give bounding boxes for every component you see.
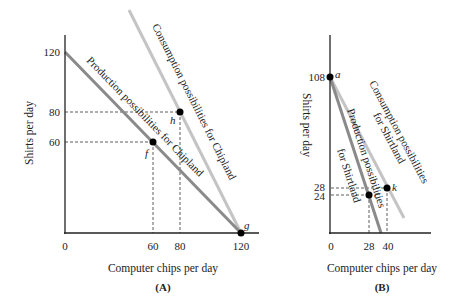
x-tick-28: 28: [364, 240, 376, 252]
x-axis-label-a: Computer chips per day: [108, 262, 218, 275]
panel-label-b: (B): [375, 281, 390, 294]
point-label-g: g: [244, 219, 250, 231]
production-label-chipland: Production possibilities for Chipland: [85, 54, 207, 179]
point-label-f: f: [145, 147, 150, 159]
point-c: [366, 192, 373, 199]
y-tick-80: 80: [49, 106, 61, 118]
y-tick-108: 108: [309, 71, 326, 83]
point-label-k: k: [392, 181, 398, 193]
point-f: [150, 139, 157, 146]
y-tick-24: 24: [314, 190, 326, 202]
panel-label-a: (A): [155, 281, 171, 294]
figure: f h g 120 80 60 0 60 80 120 Computer chi…: [0, 0, 463, 308]
point-label-a: a: [335, 68, 341, 80]
panel-b: a c k 108 28 24 0 28 40 Computer chips p…: [300, 35, 437, 294]
x-tick-0-b: 0: [328, 240, 334, 252]
x-tick-40: 40: [383, 240, 395, 252]
panel-a: f h g 120 80 60 0 60 80 120 Computer chi…: [23, 10, 259, 294]
y-tick-60: 60: [49, 136, 61, 148]
x-tick-120: 120: [233, 240, 250, 252]
x-tick-0: 0: [62, 240, 68, 252]
x-tick-80: 80: [175, 240, 187, 252]
x-axis-label-b: Computer chips per day: [327, 262, 437, 275]
production-label-shirtland-2: for Shirtland: [335, 147, 364, 204]
x-tick-60: 60: [148, 240, 160, 252]
y-tick-120: 120: [44, 46, 61, 58]
point-h: [177, 109, 184, 116]
point-label-h: h: [170, 114, 176, 126]
y-axis-label-a: Shirts per day: [23, 101, 36, 165]
y-axis-label-b: Shirts per day: [300, 93, 313, 157]
point-a: [327, 74, 334, 81]
